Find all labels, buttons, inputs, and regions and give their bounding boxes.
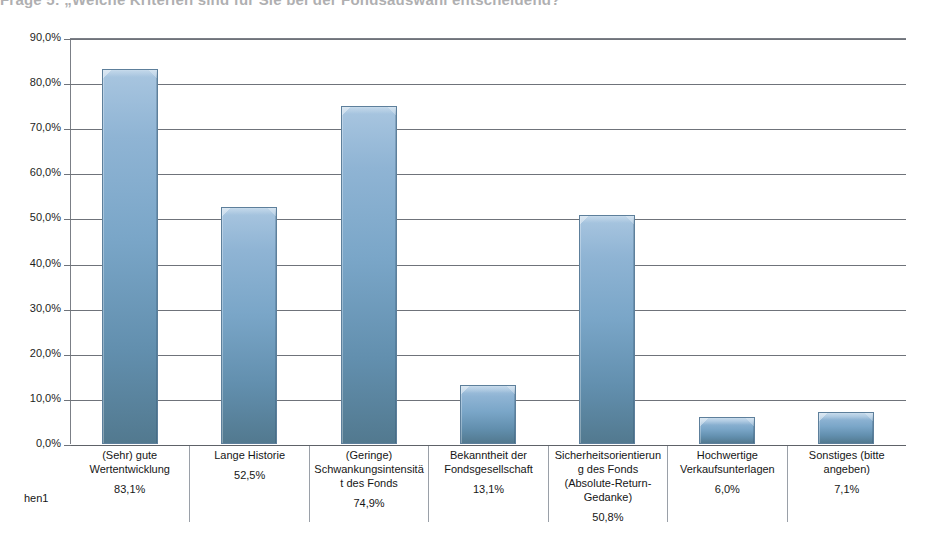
bars-layer: [70, 38, 906, 444]
bar: [579, 215, 635, 444]
y-axis-label: 30,0%: [0, 302, 61, 314]
y-axis-label: 0,0%: [0, 437, 61, 449]
bar: [699, 417, 755, 444]
category-value: 13,1%: [429, 482, 547, 496]
category-label: (Sehr) gute Wertentwicklung: [70, 446, 189, 476]
y-axis-label: 90,0%: [0, 31, 61, 43]
table-column: (Geringe) Schwankungsintensität des Fond…: [309, 446, 428, 522]
table-column: Lange Historie52,5%: [189, 446, 308, 522]
category-value: 6,0%: [668, 482, 786, 496]
category-value: 83,1%: [70, 482, 189, 496]
category-label: (Geringe) Schwankungsintensität des Fond…: [310, 446, 428, 490]
y-axis-label: 70,0%: [0, 121, 61, 133]
table-column: Bekanntheit der Fondsgesellschaft13,1%: [428, 446, 547, 522]
table-column: Sonstiges (bitte angeben)7,1%: [787, 446, 906, 522]
table-column: Sicherheitsorientierung des Fonds (Absol…: [548, 446, 667, 522]
bar: [460, 385, 516, 444]
category-label: Sonstiges (bitte angeben): [788, 446, 906, 476]
y-axis-label: 20,0%: [0, 347, 61, 359]
category-value: 50,8%: [549, 510, 667, 524]
bar: [341, 106, 397, 444]
category-value: 7,1%: [788, 482, 906, 496]
y-axis-label: 80,0%: [0, 76, 61, 88]
data-table: (Sehr) gute Wertentwicklung83,1%Lange Hi…: [70, 446, 906, 522]
category-label: Sicherheitsorientierung des Fonds (Absol…: [549, 446, 667, 504]
y-axis-label: 50,0%: [0, 211, 61, 223]
y-axis-label: 60,0%: [0, 166, 61, 178]
y-axis-label: 10,0%: [0, 392, 61, 404]
bar: [818, 412, 874, 444]
category-value: 52,5%: [190, 468, 308, 482]
category-label: Hochwertige Verkaufsunterlagen: [668, 446, 786, 476]
series-name-label: hen1: [24, 492, 48, 504]
category-label: Lange Historie: [190, 446, 308, 462]
y-axis-label: 40,0%: [0, 257, 61, 269]
bar: [102, 69, 158, 444]
table-column: (Sehr) gute Wertentwicklung83,1%: [70, 446, 189, 522]
category-value: 74,9%: [310, 496, 428, 510]
table-column: Hochwertige Verkaufsunterlagen6,0%: [667, 446, 786, 522]
category-label: Bekanntheit der Fondsgesellschaft: [429, 446, 547, 476]
bar: [221, 207, 277, 444]
